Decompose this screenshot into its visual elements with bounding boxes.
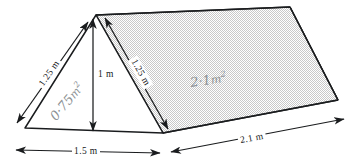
prism-diagram bbox=[0, 0, 354, 167]
label-height: 1 m bbox=[96, 69, 116, 80]
area-rect-value: 2·1 bbox=[189, 72, 212, 90]
label-base-front: 1.5 m bbox=[72, 146, 100, 157]
geometry-figure: 1.25 m 1.25 m 1 m 1.5 m 2.1 m 0·75m2 2·1… bbox=[0, 0, 354, 167]
